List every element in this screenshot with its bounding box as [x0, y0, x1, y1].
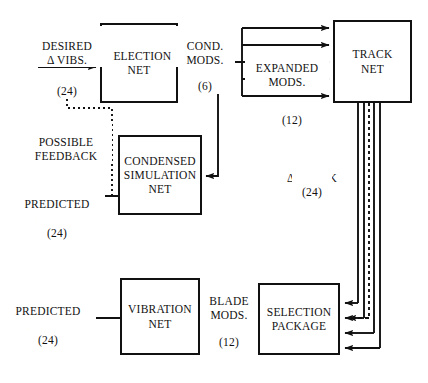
node-selection-package-label: SELECTION PACKAGE [264, 305, 334, 333]
label-possible-feedback: POSSIBLE FEEDBACK [20, 122, 112, 163]
label-blade-mods-count-text: (12) [219, 336, 239, 348]
label-desired-delta-vibs-count: (24) [37, 71, 97, 99]
label-cond-mods: COND. MODS. [175, 26, 235, 67]
label-possible-feedback-text: POSSIBLE FEEDBACK [35, 136, 97, 162]
label-predicted-delta-vibs-bottom-count-text: (24) [38, 334, 58, 346]
label-cond-mods-count: (6) [185, 66, 225, 94]
label-expanded-mods: EXPANDED MODS. [245, 48, 329, 89]
node-condensed-simulation-net[interactable]: CONDENSED SIMULATION NET [118, 135, 202, 215]
block-flow-diagram: SELECTION NET TRACK NET CONDENSED SIMULA… [0, 0, 428, 383]
node-selection-package[interactable]: SELECTION PACKAGE [258, 283, 340, 355]
label-blade-mods: BLADE MODS. [200, 281, 258, 322]
label-expanded-mods-text: EXPANDED MODS. [256, 62, 319, 88]
label-expanded-mods-count-text: (12) [282, 114, 302, 126]
node-vibration-net-label: VIBRATION NET [125, 302, 195, 330]
label-predicted-delta-vibs-top-count-text: (24) [47, 227, 67, 239]
edge-delta-track-line-3-dashed [345, 103, 369, 318]
label-desired-delta-vibs-text: DESIRED Δ VIBS. [42, 40, 92, 66]
label-cond-mods-text: COND. MODS. [186, 40, 223, 66]
label-blade-mods-text: BLADE MODS. [209, 295, 248, 321]
node-selection-net-label: SELECTION NET [104, 49, 174, 77]
label-blade-mods-count: (12) [209, 322, 249, 350]
node-vibration-net[interactable]: VIBRATION NET [120, 278, 200, 355]
label-delta-track-count: (24) [292, 172, 332, 200]
label-predicted-delta-vibs-bottom-count: (24) [28, 320, 68, 348]
node-track-net-label: TRACK NET [350, 47, 396, 75]
node-track-net[interactable]: TRACK NET [333, 20, 412, 103]
label-desired-delta-vibs-count-text: (24) [57, 85, 77, 97]
label-cond-mods-count-text: (6) [198, 80, 212, 92]
label-expanded-mods-count: (12) [272, 100, 312, 128]
label-predicted-delta-vibs-top-count: (24) [37, 213, 77, 241]
label-desired-delta-vibs: DESIRED Δ VIBS. [21, 26, 113, 67]
label-delta-track-count-text: (24) [302, 186, 322, 198]
node-condensed-simulation-net-label: CONDENSED SIMULATION NET [121, 154, 199, 196]
